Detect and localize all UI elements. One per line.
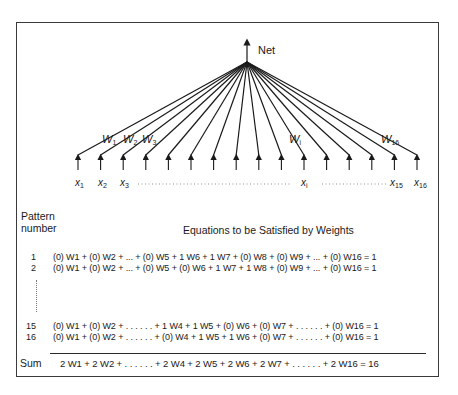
- weight-label-w2: W2: [123, 133, 137, 146]
- input-label-x16: x16: [414, 177, 427, 189]
- row-equation: (0) W1 + (0) W2 + ... + (0) W5 + (0) W6 …: [53, 263, 376, 273]
- row-equation: (0) W1 + (0) W2 + . . . . . . + (0) W4 +…: [53, 332, 378, 342]
- input-label-xi: xi: [301, 177, 308, 189]
- connection-line: [247, 62, 372, 155]
- sum-equation: 2 W1 + 2 W2 + . . . . . . + 2 W4 + 2 W5 …: [60, 358, 379, 369]
- input-label-x1: x1: [75, 177, 84, 189]
- sum-divider: [50, 353, 426, 354]
- pattern-header-line2: number: [21, 222, 57, 234]
- connection-line: [168, 62, 247, 155]
- input-arrows: [78, 157, 417, 170]
- row-number: 1: [22, 252, 36, 262]
- row-equation: (0) W1 + (0) W2 + ... + (0) W5 + 1 W6 + …: [53, 252, 376, 262]
- connection-line: [247, 62, 281, 155]
- input-label-x15: x15: [390, 177, 403, 189]
- connection-line: [146, 62, 247, 155]
- weight-label-w3: W3: [142, 133, 156, 146]
- input-label-x3: x3: [120, 177, 129, 189]
- connection-line: [247, 62, 259, 155]
- rows-ellipsis-vertical: [36, 280, 37, 312]
- row-number: 2: [22, 263, 36, 273]
- net-output-label: Net: [258, 44, 275, 56]
- row-number: 16: [22, 332, 36, 342]
- weight-label-w16: W16: [381, 133, 399, 146]
- input-label-x2: x2: [98, 177, 107, 189]
- connection-line: [247, 62, 327, 155]
- weight-label-wi: Wi: [289, 133, 301, 146]
- row-equation: (0) W1 + (0) W2 + . . . . . . + 1 W4 + 1…: [53, 321, 378, 331]
- sum-label: Sum: [20, 357, 42, 369]
- equations-title: Equations to be Satisfied by Weights: [183, 224, 354, 236]
- weight-label-w1: W1: [102, 133, 116, 146]
- row-number: 15: [22, 321, 36, 331]
- pattern-header-line1: Pattern: [21, 210, 55, 222]
- connection-line: [247, 62, 394, 155]
